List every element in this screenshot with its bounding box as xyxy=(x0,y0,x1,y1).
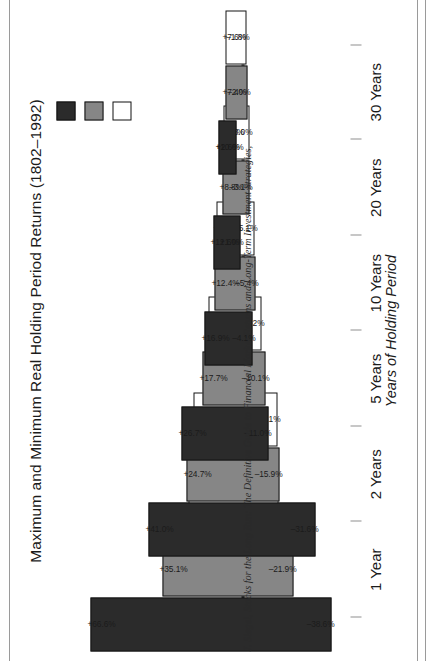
x-axis: 1 Year2 Years5 Years10 Years20 Years30 Y… xyxy=(350,44,352,617)
x-axis-tick xyxy=(350,521,361,522)
legend-item-stocks xyxy=(56,92,75,120)
chart-title: Maximum and Minimum Real Holding Period … xyxy=(26,8,44,653)
bar-value-label-min: –31.6% xyxy=(290,525,318,533)
bar-group: +12.6%+1.0%+8.8%–3.1%+8.3%–3.0% xyxy=(82,140,334,236)
bar-value-label-max: +24.7% xyxy=(183,470,211,478)
x-axis-title: Years of Holding Period xyxy=(382,8,398,653)
x-axis-tick xyxy=(350,234,361,235)
page-rule-left xyxy=(9,0,10,661)
chart-page: Maximum and Minimum Real Holding Period … xyxy=(0,0,440,661)
x-axis-tick xyxy=(350,330,361,331)
x-axis-label: 10 Years xyxy=(366,235,383,331)
bar-value-label-min: +2.6% xyxy=(216,143,239,151)
bar-value-label-max: +35.1% xyxy=(159,565,187,573)
x-axis-tick xyxy=(350,425,361,426)
x-axis-label: 30 Years xyxy=(366,44,383,140)
x-axis-tick xyxy=(350,44,361,45)
bars-area: +66.6%–38.6%+35.1%–21.9%+23.7%–15.6%+41.… xyxy=(82,44,334,617)
bar-value-label-max: +66.6% xyxy=(87,620,115,628)
bar-value-label-max: +41.0% xyxy=(145,525,173,533)
bar-group: +16.9%–4.1%+12.4%–5.4%+11.6%–5.1% xyxy=(82,235,334,331)
bar-value-label-min: –15.9% xyxy=(254,470,282,478)
legend-swatch-stocks-icon xyxy=(56,101,75,120)
source-caption: J. Siegel, Stocks for the Long Run: The … xyxy=(242,12,253,652)
bar-value-label-min: +1.0% xyxy=(220,238,243,246)
chart-plot: Maximum and Minimum Real Holding Period … xyxy=(20,8,420,653)
page-rule-right-outer xyxy=(425,0,426,661)
x-axis-tick xyxy=(350,616,361,617)
bar-stocks-1-year xyxy=(90,597,331,651)
x-axis-label: 1 Year xyxy=(366,522,383,618)
bar-value-label-max: +17.7% xyxy=(199,374,227,382)
x-axis-tick xyxy=(350,139,361,140)
rotated-chart-wrapper: Maximum and Minimum Real Holding Period … xyxy=(20,8,420,653)
bar-value-label-min: –38.6% xyxy=(306,620,334,628)
x-axis-label: 2 Years xyxy=(366,426,383,522)
bar-value-label-max: +16.9% xyxy=(201,334,229,342)
bar-value-label-min: –21.9% xyxy=(268,565,296,573)
bar-value-label-max: +26.7% xyxy=(178,429,206,437)
x-axis-label: 5 Years xyxy=(366,331,383,427)
x-axis-label: 20 Years xyxy=(366,140,383,236)
bar-group: +10.6%+2.6%+7.4%–2.0%+7.6%–1.8% xyxy=(82,44,334,140)
